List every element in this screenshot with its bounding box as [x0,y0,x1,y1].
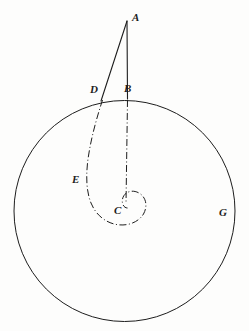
main-circle [14,101,235,322]
label-point-b: B [124,83,131,94]
label-point-e: E [72,174,79,185]
label-point-c: C [114,205,121,216]
segment-b-c-dashdot [126,100,128,204]
label-point-a: A [132,12,139,23]
geometry-figure: A B C D E G [0,0,249,331]
label-point-g: G [219,207,227,218]
label-point-d: D [90,84,98,95]
figure-canvas [0,0,249,331]
